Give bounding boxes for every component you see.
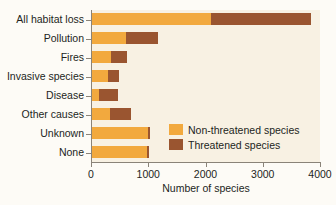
species-threat-bar-chart: All habitat lossPollutionFiresInvasive s… bbox=[0, 0, 336, 205]
bar-row bbox=[91, 86, 320, 105]
bar-segment-threatened bbox=[111, 51, 127, 63]
y-axis-tick bbox=[86, 39, 91, 40]
y-axis-label: Other causes bbox=[0, 109, 84, 120]
y-axis-tick bbox=[86, 134, 91, 135]
bar-row bbox=[91, 29, 320, 48]
bar-segment-non-threatened bbox=[91, 51, 111, 63]
bar-row bbox=[91, 48, 320, 67]
bar-segment-threatened bbox=[148, 127, 151, 139]
y-axis-line bbox=[91, 10, 92, 162]
bar-segment-threatened bbox=[108, 70, 119, 82]
x-axis-tick-label: 1000 bbox=[137, 168, 160, 180]
bar-segment-non-threatened bbox=[91, 13, 211, 25]
x-axis-tick bbox=[263, 162, 264, 167]
x-axis-tick-label: 2000 bbox=[194, 168, 217, 180]
legend-item-threatened: Threatened species bbox=[169, 138, 300, 151]
bar-segment-threatened bbox=[211, 13, 311, 25]
y-axis-tick bbox=[86, 153, 91, 154]
bar-segment-threatened bbox=[126, 32, 158, 44]
x-axis-tick-label: 3000 bbox=[251, 168, 274, 180]
y-axis-label: Invasive species bbox=[0, 71, 84, 82]
x-axis-tick-label: 0 bbox=[88, 168, 94, 180]
bar-segment-non-threatened bbox=[91, 32, 126, 44]
bar-row bbox=[91, 105, 320, 124]
y-axis-label: All habitat loss bbox=[0, 14, 84, 25]
legend-label-threatened: Threatened species bbox=[188, 139, 280, 151]
bar-segment-non-threatened bbox=[91, 108, 110, 120]
x-axis-tick bbox=[148, 162, 149, 167]
bar-segment-non-threatened bbox=[91, 70, 108, 82]
bar-segment-threatened bbox=[110, 108, 131, 120]
legend-swatch-non-threatened bbox=[169, 124, 183, 135]
bar-segment-non-threatened bbox=[91, 89, 99, 101]
y-axis-tick bbox=[86, 20, 91, 21]
x-axis-tick bbox=[91, 162, 92, 167]
bar-segment-threatened bbox=[147, 146, 148, 158]
y-axis-labels: All habitat lossPollutionFiresInvasive s… bbox=[0, 10, 84, 162]
x-axis-tick-label: 4000 bbox=[308, 168, 331, 180]
chart-legend: Non-threatened species Threatened specie… bbox=[169, 123, 300, 153]
y-axis-label: Fires bbox=[0, 52, 84, 63]
bar-row bbox=[91, 67, 320, 86]
y-axis-label: Pollution bbox=[0, 33, 84, 44]
y-axis-tick bbox=[86, 58, 91, 59]
y-axis-label: None bbox=[0, 147, 84, 158]
y-axis-tick bbox=[86, 77, 91, 78]
bar-segment-non-threatened bbox=[91, 146, 147, 158]
legend-item-non-threatened: Non-threatened species bbox=[169, 123, 300, 136]
legend-swatch-threatened bbox=[169, 139, 183, 150]
x-axis-title: Number of species bbox=[91, 182, 321, 194]
bar-segment-non-threatened bbox=[91, 127, 148, 139]
x-axis-tick bbox=[320, 162, 321, 167]
bar-segment-threatened bbox=[99, 89, 118, 101]
y-axis-tick bbox=[86, 96, 91, 97]
bar-row bbox=[91, 10, 320, 29]
y-axis-label: Unknown bbox=[0, 128, 84, 139]
x-axis-tick bbox=[206, 162, 207, 167]
y-axis-label: Disease bbox=[0, 90, 84, 101]
y-axis-tick bbox=[86, 115, 91, 116]
legend-label-non-threatened: Non-threatened species bbox=[188, 124, 300, 136]
